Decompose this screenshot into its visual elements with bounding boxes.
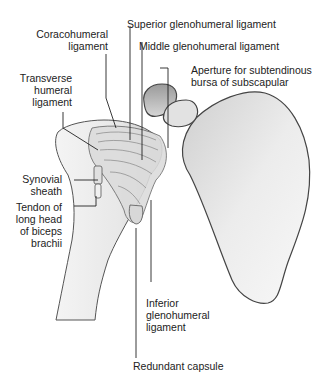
biceps-tendon — [95, 184, 101, 198]
label-aperture-subtendinous-bursa: Aperture for subtendinous bursa of subsc… — [191, 64, 312, 88]
label-superior-glenohumeral-ligament: Superior glenohumeral ligament — [127, 18, 276, 30]
label-redundant-capsule: Redundant capsule — [133, 360, 224, 372]
scapula — [182, 92, 309, 303]
label-synovial-sheath: Synovial sheath — [0, 173, 62, 197]
synovial-sheath — [94, 166, 102, 184]
label-coracohumeral-ligament: Coracohumeral ligament — [30, 28, 108, 52]
label-middle-glenohumeral-ligament: Middle glenohumeral ligament — [139, 40, 279, 52]
label-tendon-long-head-biceps: Tendon of long head of biceps brachii — [0, 201, 62, 249]
label-transverse-humeral-ligament: Transverse humeral ligament — [0, 72, 72, 108]
label-inferior-glenohumeral-ligament: Inferior glenohumeral ligament — [146, 297, 210, 333]
